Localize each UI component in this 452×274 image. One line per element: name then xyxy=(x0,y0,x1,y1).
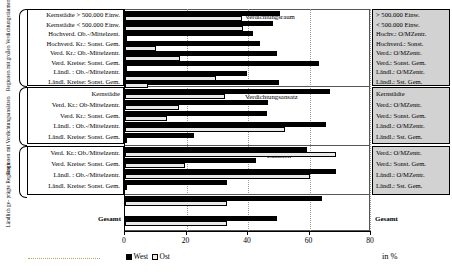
category-label-right: Verd.: Sonst. Gem. xyxy=(376,160,426,168)
x-tick-0 xyxy=(124,232,125,235)
legend-label-ost: Ost xyxy=(160,252,170,261)
category-label: Kernstädte > 500.000 Einw. xyxy=(46,11,120,19)
bar-ost xyxy=(125,174,310,179)
x-tick-80 xyxy=(370,232,371,235)
left-label-panel-group-3: Verd. Kr.: Ob./Mittelzentr. Verd. Kreise… xyxy=(27,146,124,195)
category-label: Verd. Kr.: Ob-Mittelzentr. xyxy=(52,101,120,109)
axis-unit-label: in % xyxy=(382,252,398,261)
category-label-right: Verd.: O/MZentr. xyxy=(376,101,422,109)
category-label: Ländl. Kreise: Sonst. Gem. xyxy=(48,182,120,190)
category-label-right: Verd.: Sonst. Gem. xyxy=(376,59,426,67)
category-label: Ländl. : Ob.-/Mittelzentr. xyxy=(54,122,120,130)
bar-ost xyxy=(125,94,225,99)
category-label: Verd. Kreise: Sonst. Gem. xyxy=(51,160,120,168)
decorative-dotted-rule xyxy=(28,258,100,259)
category-label-right: > 500.000 Einw. xyxy=(376,11,420,19)
category-label-right: Kernstädte xyxy=(376,90,405,98)
bar-west xyxy=(125,133,194,138)
category-label: Ländl. : Ob.-/Mittelzentr. xyxy=(54,68,120,76)
category-label-right: Ländl.: O/MZentr. xyxy=(376,68,425,76)
category-label-right: Ländl.: O/MZentr. xyxy=(376,171,425,179)
category-label-right: Ländl.: O/MZentr. xyxy=(376,122,425,130)
x-tick-40 xyxy=(247,232,248,235)
x-tick-label: 0 xyxy=(122,236,126,245)
left-label-panel-group-1: Kernstädte > 500.000 Einw. Kernstädte < … xyxy=(27,9,124,86)
bar-ost xyxy=(125,152,336,157)
category-label-right: Gesamt xyxy=(375,215,398,223)
category-label: Verd. Kreise: Sonst. Gem. xyxy=(51,59,120,67)
category-label-right: < 500.000 Einw. xyxy=(376,21,420,29)
bar-ost xyxy=(125,127,285,132)
category-label: Verd. Kr.: Ob./Mittelzentr. xyxy=(50,149,120,157)
x-tick-60 xyxy=(309,232,310,235)
category-label: Hochverd. Ob.-/Mittelzent. xyxy=(48,30,120,38)
x-tick-20 xyxy=(186,232,187,235)
brace-group-3 xyxy=(19,146,27,198)
category-label-right: Verd.: O/MZentr. xyxy=(376,149,422,157)
category-label-right: Ländl.: Sst. Gem. xyxy=(376,78,422,86)
bar-ost-gesamt xyxy=(125,201,227,206)
bar-ost xyxy=(125,163,185,168)
legend-swatch-ost-icon xyxy=(152,254,158,260)
category-label: Ländl. : Ob.-/Mittelzentr. xyxy=(54,171,120,179)
legend-entry-west: West xyxy=(126,252,148,261)
group-caption-laendlich: Ländlich ge- prägte Regionen xyxy=(5,147,11,243)
bar-ost xyxy=(125,83,148,88)
group-separator-3 xyxy=(125,194,370,195)
legend-swatch-west-icon xyxy=(126,254,132,260)
category-label: Gesamt xyxy=(98,215,121,223)
group-caption-verdichtungsraeume: Regionen mit großen Verdichtungsräumen xyxy=(5,0,11,93)
brace-group-2 xyxy=(19,87,27,146)
plot-area: Verdichtungsraum Verdichtungsansatz Länd… xyxy=(124,9,370,231)
category-label-right: Hochv.: O/MZentr. xyxy=(376,30,426,38)
category-label: Ländl. Kreise: Sonst. Gem. xyxy=(48,78,120,86)
brace-group-1 xyxy=(19,9,27,87)
left-label-panel-group-2: Kernstädte Verd. Kr.: Ob-Mittelzentr. Ve… xyxy=(27,87,124,144)
bar-ost xyxy=(125,105,179,110)
right-label-panel-group-1: > 500.000 Einw. < 500.000 Einw. Hochv.: … xyxy=(372,9,450,86)
category-label: Verd. Kr.: Sonst. Gem. xyxy=(60,112,120,120)
bar-west xyxy=(125,180,227,185)
bar-west xyxy=(125,61,319,66)
category-label-right: Ländl.: Sst. Gem. xyxy=(376,133,422,141)
chart-container: Regionen mit großen Verdichtungsräumen R… xyxy=(0,0,452,274)
category-label-right: Ländl.: Sst. Gem. xyxy=(376,182,422,190)
bar-west xyxy=(125,31,253,36)
legend: West Ost xyxy=(126,252,170,261)
x-tick-label: 20 xyxy=(182,236,190,245)
gridline-80 xyxy=(370,9,371,231)
category-label-right: Verd.: Sonst. Gem. xyxy=(376,112,426,120)
group-separator-1 xyxy=(125,86,370,87)
category-label: Ländl. Kreise: Sonst. Gem. xyxy=(48,133,120,141)
legend-entry-ost: Ost xyxy=(152,252,170,261)
category-label: Kernstädte xyxy=(91,90,120,98)
bar-ost-gesamt xyxy=(125,221,227,226)
category-label-right: Hochverd.: Sonst. xyxy=(376,40,423,48)
x-tick-label: 40 xyxy=(243,236,251,245)
category-label: Kernstädte < 500.000 Einw. xyxy=(46,21,120,29)
x-tick-label: 60 xyxy=(305,236,313,245)
bar-ost xyxy=(125,185,127,190)
right-label-panel-group-2: Kernstädte Verd.: O/MZentr. Verd.: Sonst… xyxy=(372,87,450,144)
bar-ost xyxy=(125,116,167,121)
category-label: Hochverd. Kr.: Sonst. Gem. xyxy=(47,40,120,48)
x-tick-label: 80 xyxy=(366,236,374,245)
category-label-right: Verd.: O/MZentr. xyxy=(376,49,422,57)
category-label: Verd. Kr.: Ob.-Mittelzentr. xyxy=(50,49,120,57)
legend-label-west: West xyxy=(134,252,149,261)
group-separator-2 xyxy=(125,145,370,146)
right-label-panel-group-3: Verd.: O/MZentr. Verd.: Sonst. Gem. Länd… xyxy=(372,146,450,195)
bar-ost xyxy=(125,138,127,143)
